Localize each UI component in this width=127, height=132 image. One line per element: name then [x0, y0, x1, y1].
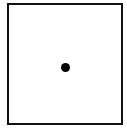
center-dot-icon	[61, 63, 70, 72]
